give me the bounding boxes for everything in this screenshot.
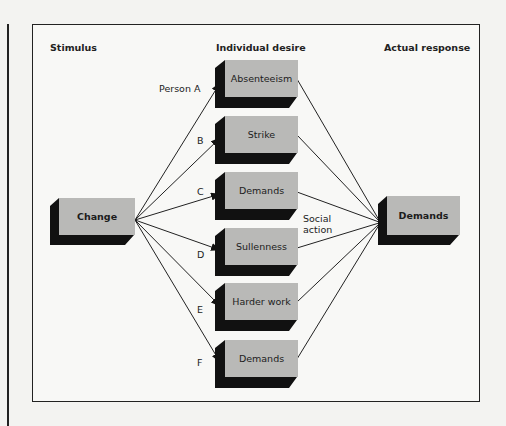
desire-label: Absenteeism: [225, 60, 298, 97]
desire-label: Demands: [225, 340, 298, 377]
person-label-d: D: [197, 249, 204, 260]
desire-box-d: Sullenness: [215, 228, 298, 276]
arrow-c: [135, 194, 220, 220]
response-box: Demands: [378, 196, 460, 245]
arrow-d: [135, 220, 220, 250]
person-label-c: C: [197, 186, 204, 197]
person-label-e: E: [197, 304, 203, 315]
desire-label: Sullenness: [225, 228, 298, 265]
stimulus-label: Change: [59, 198, 135, 235]
desire-label: Harder work: [225, 283, 298, 320]
person-label-b: B: [197, 135, 204, 146]
desire-label: Strike: [225, 116, 298, 153]
arrow-f: [135, 220, 220, 362]
annotation-line-2: action: [303, 224, 332, 235]
desire-box-a: Absenteeism: [215, 60, 298, 108]
arrow-a: [135, 83, 220, 220]
stimulus-box: Change: [50, 198, 135, 245]
desire-box-b: Strike: [215, 116, 298, 164]
arrow-e: [135, 220, 220, 306]
desire-label: Demands: [225, 172, 298, 209]
arrow-b: [135, 138, 220, 220]
annotation-line-1: Social: [303, 213, 332, 224]
desire-box-f: Demands: [215, 340, 298, 388]
desire-box-e: Harder work: [215, 283, 298, 331]
response-label: Demands: [387, 196, 460, 235]
person-label-f: F: [197, 357, 202, 368]
person-label-a: Person A: [159, 83, 200, 94]
social-action-annotation: Social action: [303, 213, 332, 235]
desire-box-c: Demands: [215, 172, 298, 220]
